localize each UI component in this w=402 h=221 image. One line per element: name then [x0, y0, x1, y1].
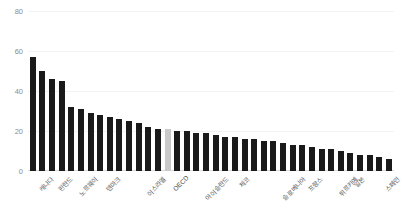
bar-slot — [249, 11, 259, 171]
bar-slot — [230, 11, 240, 171]
x-axis: 캐나다핀란드노르웨이덴마크이스라엘OECD아이슬란드체코슬로베니아프랑스튀르키예… — [28, 172, 394, 221]
bar-일본[interactable] — [347, 153, 353, 171]
bar-slot — [375, 11, 385, 171]
bar-독일[interactable] — [242, 139, 248, 171]
bar-에스토니아[interactable] — [184, 131, 190, 171]
bar-slot — [288, 11, 298, 171]
bar-slot — [211, 11, 221, 171]
bar-slot — [95, 11, 105, 171]
bar-네덜란드[interactable] — [116, 119, 122, 171]
x-tick-slot — [249, 172, 259, 221]
bar-slot — [365, 11, 375, 171]
y-tick-60: 60 — [15, 47, 23, 56]
bar-slot — [192, 11, 202, 171]
bar-series — [28, 11, 394, 171]
x-tick-slot — [144, 172, 154, 221]
x-tick-slot: 아이슬란드 — [192, 172, 202, 221]
bar-멕시코[interactable] — [357, 155, 363, 171]
bar-OECD[interactable] — [165, 129, 171, 171]
bar-호주[interactable] — [78, 109, 84, 171]
bar-칠레[interactable] — [319, 149, 325, 171]
x-tick-slot — [355, 172, 365, 221]
bar-slot — [384, 11, 394, 171]
bar-slot — [105, 11, 115, 171]
bar-스페인[interactable] — [376, 157, 382, 171]
bar-이스라엘[interactable] — [136, 123, 142, 171]
x-tick-slot — [278, 172, 288, 221]
bar-체코[interactable] — [232, 137, 238, 171]
x-tick-slot: 핀란드 — [47, 172, 57, 221]
x-tick-slot — [259, 172, 269, 221]
x-tick-slot — [307, 172, 317, 221]
bar-slot — [259, 11, 269, 171]
bar-slot — [326, 11, 336, 171]
bar-slot — [278, 11, 288, 171]
x-tick-slot — [57, 172, 67, 221]
y-tick-80: 80 — [15, 7, 23, 16]
bar-slot — [269, 11, 279, 171]
bar-아일랜드[interactable] — [39, 71, 45, 171]
x-tick-slot — [153, 172, 163, 221]
bar-룩셈부르크[interactable] — [59, 81, 65, 171]
x-tick-slot — [201, 172, 211, 221]
bar-스위스[interactable] — [107, 117, 113, 171]
bar-캐나다[interactable] — [30, 57, 36, 171]
bar-미국[interactable] — [126, 121, 132, 171]
bar-헝가리[interactable] — [261, 141, 267, 171]
bar-영국[interactable] — [88, 113, 94, 171]
x-tick-slot — [317, 172, 327, 221]
bar-노르웨이[interactable] — [68, 107, 74, 171]
bar-폴란드[interactable] — [222, 137, 228, 171]
bar-리투아니아[interactable] — [251, 139, 257, 171]
bar-포르투갈[interactable] — [280, 143, 286, 171]
bar-아이슬란드[interactable] — [193, 133, 199, 171]
bar-slot — [201, 11, 211, 171]
bar-벨기에[interactable] — [174, 131, 180, 171]
x-tick-slot — [38, 172, 48, 221]
bar-그리스[interactable] — [290, 145, 296, 171]
bar-코스타리카[interactable] — [386, 159, 392, 171]
x-tick-slot — [384, 172, 394, 221]
bar-slot — [307, 11, 317, 171]
x-tick-slot — [211, 172, 221, 221]
bar-라트비아[interactable] — [203, 133, 209, 171]
bar-튀르키예[interactable] — [328, 149, 334, 171]
bar-뉴질랜드[interactable] — [155, 129, 161, 171]
bar-콜롬비아[interactable] — [367, 155, 373, 171]
bar-스웨덴[interactable] — [145, 127, 151, 171]
bar-slot — [172, 11, 182, 171]
bar-slot — [28, 11, 38, 171]
bar-slot — [153, 11, 163, 171]
bar-이탈리아[interactable] — [338, 151, 344, 171]
x-tick-slot — [115, 172, 125, 221]
bar-slot — [86, 11, 96, 171]
bar-오스트리아[interactable] — [213, 135, 219, 171]
bar-slot — [144, 11, 154, 171]
bar-핀란드[interactable] — [49, 79, 55, 171]
bar-덴마크[interactable] — [97, 115, 103, 171]
x-tick-slot: 이스라엘 — [134, 172, 144, 221]
bar-slot — [298, 11, 308, 171]
x-tick-slot: 덴마크 — [95, 172, 105, 221]
x-tick-slot: 스페인 — [375, 172, 385, 221]
bar-slot — [182, 11, 192, 171]
x-tick-slot: 체코 — [230, 172, 240, 221]
bar-프랑스[interactable] — [299, 145, 305, 171]
bar-슬로베니아[interactable] — [270, 141, 276, 171]
y-tick-40: 40 — [15, 87, 23, 96]
x-tick-slot: 프랑스 — [298, 172, 308, 221]
x-tick-slot — [336, 172, 346, 221]
bar-slot — [317, 11, 327, 171]
x-tick-slot: 캐나다 — [28, 172, 38, 221]
x-tick-slot — [86, 172, 96, 221]
bar-슬로바키아[interactable] — [309, 147, 315, 171]
bar-slot — [134, 11, 144, 171]
x-tick-slot — [172, 172, 182, 221]
x-tick-slot — [76, 172, 86, 221]
bar-slot — [346, 11, 356, 171]
x-tick-slot: 노르웨이 — [67, 172, 77, 221]
bar-slot — [115, 11, 125, 171]
x-tick-slot — [182, 172, 192, 221]
x-tick-slot — [240, 172, 250, 221]
